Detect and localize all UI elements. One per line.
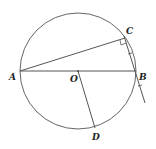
geometry-diagram: A B C O D — [0, 0, 156, 149]
diagram-svg: A B C O D — [0, 0, 156, 149]
label-o: O — [70, 74, 78, 84]
label-c: C — [126, 26, 134, 36]
segment-ac — [20, 38, 125, 71]
label-a: A — [8, 72, 16, 82]
tick-mark-2 — [138, 85, 142, 86]
tick-mark-1 — [128, 53, 132, 54]
label-d: D — [91, 132, 100, 142]
segment-od — [78, 71, 95, 128]
line-through-c-b — [124, 36, 145, 103]
point-o — [77, 70, 79, 72]
label-b: B — [138, 72, 147, 82]
